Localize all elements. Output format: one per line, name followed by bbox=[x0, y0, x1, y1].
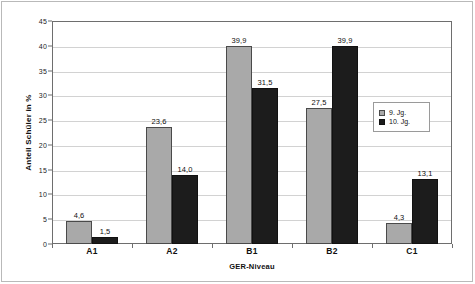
x-axis-tick-mark bbox=[212, 244, 213, 248]
x-axis-tick-mark bbox=[292, 244, 293, 248]
y-axis-tick-label: 10 bbox=[39, 191, 47, 198]
bar: 1,5 bbox=[92, 237, 118, 244]
bar-value-label: 39,9 bbox=[338, 36, 353, 45]
bar-chart-figure: Anteil Schüler in % 051015202530354045 4… bbox=[0, 0, 475, 284]
x-axis-title: GER-Niveau bbox=[52, 262, 452, 271]
bar: 23,6 bbox=[146, 127, 172, 244]
x-axis-tick-label: B1 bbox=[212, 246, 292, 262]
bar-value-label: 1,5 bbox=[100, 227, 111, 236]
bar: 4,3 bbox=[386, 223, 412, 244]
x-axis-tick-label: A1 bbox=[52, 246, 132, 262]
legend-item: 9. Jg. bbox=[379, 109, 425, 116]
bar-value-label: 13,1 bbox=[418, 169, 433, 178]
bar-group: 4,313,1 bbox=[372, 21, 452, 244]
y-axis-tick-label: 25 bbox=[39, 117, 47, 124]
legend-item: 10. Jg. bbox=[379, 118, 425, 125]
bar-value-label: 14,0 bbox=[178, 165, 193, 174]
x-axis-tick-mark bbox=[372, 244, 373, 248]
bar-value-label: 27,5 bbox=[312, 98, 327, 107]
x-axis-tick-label: C1 bbox=[372, 246, 452, 262]
legend: 9. Jg.10. Jg. bbox=[373, 102, 430, 132]
bar-group: 27,539,9 bbox=[292, 21, 372, 244]
bars-layer: 4,61,523,614,039,931,527,539,94,313,1 bbox=[52, 21, 452, 244]
bar-value-label: 23,6 bbox=[152, 117, 167, 126]
bar-value-label: 39,9 bbox=[232, 36, 247, 45]
bar-group: 39,931,5 bbox=[212, 21, 292, 244]
x-axis-tick-mark bbox=[452, 244, 453, 248]
bar: 14,0 bbox=[172, 175, 198, 244]
y-axis-tick-label: 5 bbox=[43, 216, 47, 223]
y-axis-tick-label: 40 bbox=[39, 42, 47, 49]
bar-value-label: 4,6 bbox=[74, 211, 85, 220]
y-axis-tick-label: 30 bbox=[39, 92, 47, 99]
bar: 39,9 bbox=[332, 46, 358, 244]
x-axis-tick-label: B2 bbox=[292, 246, 372, 262]
x-axis-tick-mark bbox=[132, 244, 133, 248]
bar: 4,6 bbox=[66, 221, 92, 244]
y-axis-tick-label: 0 bbox=[43, 241, 47, 248]
y-axis-tick-label: 35 bbox=[39, 67, 47, 74]
y-axis-tick-label: 45 bbox=[39, 18, 47, 25]
bar: 27,5 bbox=[306, 108, 332, 244]
bar: 13,1 bbox=[412, 179, 438, 244]
x-axis: A1A2B1B2C1 bbox=[52, 246, 452, 262]
x-axis-tick-label: A2 bbox=[132, 246, 212, 262]
legend-swatch-icon bbox=[379, 110, 385, 116]
bar-value-label: 4,3 bbox=[394, 213, 405, 222]
bar-group: 23,614,0 bbox=[132, 21, 212, 244]
legend-label: 10. Jg. bbox=[389, 118, 410, 125]
y-axis-tick-label: 15 bbox=[39, 166, 47, 173]
legend-label: 9. Jg. bbox=[389, 109, 406, 116]
bar-value-label: 31,5 bbox=[258, 78, 273, 87]
y-axis: 051015202530354045 bbox=[0, 21, 52, 244]
bar-group: 4,61,5 bbox=[52, 21, 132, 244]
legend-swatch-icon bbox=[379, 119, 385, 125]
y-axis-tick-label: 20 bbox=[39, 141, 47, 148]
bar: 39,9 bbox=[226, 46, 252, 244]
x-axis-tick-mark bbox=[52, 244, 53, 248]
bar: 31,5 bbox=[252, 88, 278, 244]
